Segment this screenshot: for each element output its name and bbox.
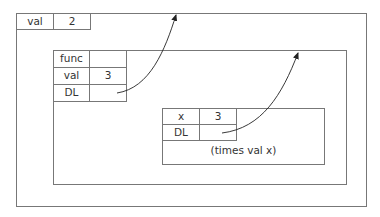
pointer-arrows bbox=[0, 0, 380, 217]
func-dl-arrow bbox=[117, 15, 176, 93]
call-dl-arrow bbox=[222, 53, 298, 133]
